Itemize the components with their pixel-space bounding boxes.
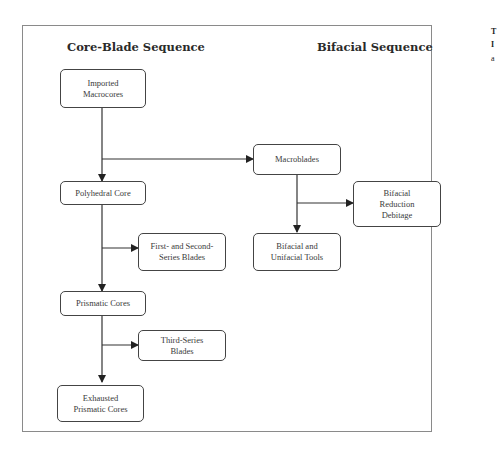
clipped-margin-text-3: a <box>491 54 495 63</box>
node-macroblades: Macroblades <box>253 144 341 175</box>
node-prismatic-cores: Prismatic Cores <box>60 291 146 316</box>
node-first-second-series-blades: First- and Second- Series Blades <box>138 233 226 271</box>
node-bifacial-reduction-debitage: Bifacial Reduction Debitage <box>353 181 441 227</box>
clipped-margin-text-2: I <box>491 40 494 49</box>
node-bifacial-unifacial-tools: Bifacial and Unifacial Tools <box>253 233 341 271</box>
node-polyhedral-core: Polyhedral Core <box>60 181 146 205</box>
node-exhausted-prismatic-cores: Exhausted Prismatic Cores <box>57 385 144 422</box>
clipped-margin-text-1: T <box>491 27 496 36</box>
node-imported-macrocores: Imported Macrocores <box>60 69 146 108</box>
node-third-series-blades: Third-Series Blades <box>138 330 226 361</box>
